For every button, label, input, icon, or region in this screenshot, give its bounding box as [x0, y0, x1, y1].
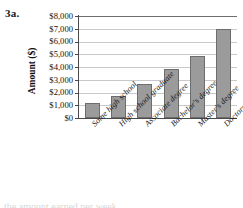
bar [85, 103, 100, 118]
bars-group [79, 16, 237, 118]
bar [216, 29, 231, 118]
y-tick-mark [75, 29, 79, 30]
cropped-caption-text: the amount earned per week [4, 201, 239, 208]
y-tick-label: $3,000 [29, 75, 73, 85]
plot-area [79, 16, 237, 118]
y-tick-mark [75, 42, 79, 43]
bar [164, 69, 179, 118]
y-tick-mark [75, 80, 79, 81]
figure-number-label: 3a. [5, 7, 19, 19]
figure-container: 3a. Amount ($) $0$1,000$2,000$3,000$4,00… [0, 0, 243, 208]
y-tick-label: $0 [29, 113, 73, 123]
y-tick-mark [75, 54, 79, 55]
y-tick-label: $6,000 [29, 36, 73, 46]
y-tick-label: $5,000 [29, 49, 73, 59]
bar [190, 56, 205, 118]
y-tick-label: $4,000 [29, 62, 73, 72]
y-tick-label: $7,000 [29, 24, 73, 34]
y-tick-mark [75, 118, 79, 119]
y-tick-mark [75, 93, 79, 94]
y-tick-label: $2,000 [29, 87, 73, 97]
y-tick-mark [75, 67, 79, 68]
x-axis-line [78, 118, 237, 119]
y-tick-label: $8,000 [29, 11, 73, 21]
y-tick-mark [75, 105, 79, 106]
y-tick-label: $1,000 [29, 100, 73, 110]
bar [137, 84, 152, 118]
bar [111, 96, 126, 118]
y-tick-mark [75, 16, 79, 17]
